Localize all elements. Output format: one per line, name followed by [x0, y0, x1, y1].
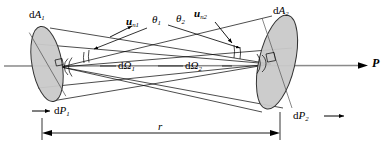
label-theta-left: θ1	[152, 14, 161, 27]
label-axis-p: P	[372, 57, 379, 69]
theta-right-leader	[168, 25, 240, 48]
label-solid-angle-right: dΩ2	[185, 60, 202, 73]
label-power-left: dP1	[54, 105, 70, 118]
label-power-right: dP2	[293, 110, 309, 123]
theta-left-leader	[94, 28, 147, 49]
diagram-svg	[0, 0, 391, 148]
label-area-left: dA1	[29, 9, 45, 22]
label-distance-r: r	[158, 121, 162, 132]
cone-left-to-right	[61, 16, 292, 112]
label-normal-left: un1	[126, 16, 139, 29]
label-normal-right: un2	[194, 8, 207, 21]
figure-canvas: dA1 dA2 un1 un2 θ1 θ2 dΩ1 dΩ2 dP1 dP2 P …	[0, 0, 391, 148]
normal-vector-right	[215, 22, 232, 43]
area-element-left	[26, 24, 69, 104]
label-solid-angle-left: dΩ1	[118, 60, 135, 73]
label-theta-right: θ2	[176, 13, 185, 26]
label-area-right: dA2	[273, 5, 289, 18]
